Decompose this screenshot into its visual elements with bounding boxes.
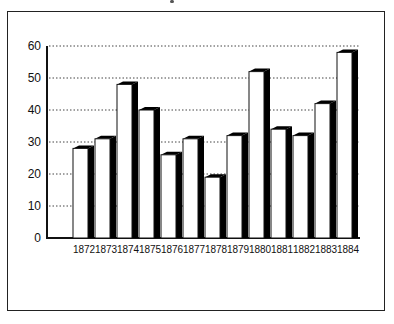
bar-face — [95, 139, 110, 238]
x-axis: 1872187318741875187618771878187918801881… — [73, 244, 360, 255]
bar-side — [220, 174, 226, 238]
bar-side — [132, 81, 138, 238]
x-tick-label: 1881 — [271, 244, 294, 255]
bar-chart: 0102030405060 18721873187418751876187718… — [0, 0, 394, 324]
x-tick-label: 1882 — [293, 244, 316, 255]
bar-1877 — [183, 136, 204, 238]
y-tick-label: 50 — [28, 71, 42, 85]
bar-1884 — [337, 49, 358, 238]
x-tick-label: 1884 — [337, 244, 360, 255]
bar-face — [73, 148, 88, 238]
bar-1880 — [249, 69, 270, 238]
bar-face — [117, 84, 132, 238]
bar-1873 — [95, 136, 116, 238]
bar-side — [330, 101, 336, 238]
bar-side — [110, 136, 116, 238]
bar-face — [161, 155, 176, 238]
bar-1875 — [139, 107, 160, 238]
y-tick-label: 10 — [28, 199, 42, 213]
bar-1879 — [227, 133, 248, 238]
bar-face — [205, 177, 220, 238]
x-tick-label: 1872 — [73, 244, 96, 255]
y-tick-label: 60 — [28, 39, 42, 53]
bar-face — [227, 136, 242, 238]
bar-1881 — [271, 126, 292, 238]
bar-face — [271, 129, 286, 238]
bar-1878 — [205, 174, 226, 238]
bar-face — [139, 110, 154, 238]
bar-face — [337, 52, 352, 238]
bar-side — [198, 136, 204, 238]
x-tick-label: 1875 — [139, 244, 162, 255]
bar-face — [183, 139, 198, 238]
x-tick-label: 1880 — [249, 244, 272, 255]
bar-side — [242, 133, 248, 238]
bar-1872 — [73, 145, 94, 238]
y-tick-label: 20 — [28, 167, 42, 181]
bar-face — [293, 136, 308, 238]
bar-side — [308, 133, 314, 238]
x-tick-label: 1878 — [205, 244, 228, 255]
x-tick-label: 1883 — [315, 244, 338, 255]
bar-1882 — [293, 133, 314, 238]
bar-side — [154, 107, 160, 238]
bar-1883 — [315, 101, 336, 238]
bar-side — [176, 152, 182, 238]
x-tick-label: 1876 — [161, 244, 184, 255]
bar-face — [315, 104, 330, 238]
y-tick-label: 0 — [34, 231, 41, 245]
bar-side — [286, 126, 292, 238]
bar-face — [249, 72, 264, 238]
bar-side — [352, 49, 358, 238]
bar-1874 — [117, 81, 138, 238]
x-tick-label: 1877 — [183, 244, 206, 255]
x-tick-label: 1874 — [117, 244, 140, 255]
bar-side — [88, 145, 94, 238]
bar-side — [264, 69, 270, 238]
y-tick-label: 30 — [28, 135, 42, 149]
bar-1876 — [161, 152, 182, 238]
x-tick-label: 1873 — [95, 244, 118, 255]
y-tick-label: 40 — [28, 103, 42, 117]
x-tick-label: 1879 — [227, 244, 250, 255]
